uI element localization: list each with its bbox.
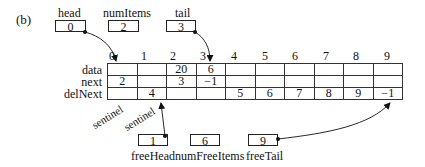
pointer-arrows <box>0 0 425 167</box>
tail-arrow <box>193 30 210 61</box>
freetail-arrow <box>276 103 390 141</box>
head-arrow <box>83 30 116 61</box>
freehead-arrow <box>161 103 167 138</box>
